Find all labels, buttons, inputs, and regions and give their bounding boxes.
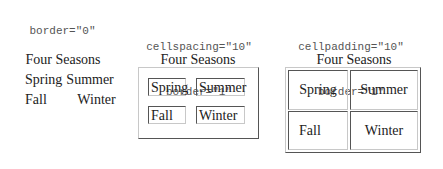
attribute-label-border-0: border="0" (10, 24, 115, 39)
table-cell: Spring (288, 70, 348, 110)
table-caption: Four Seasons (150, 52, 246, 68)
cellpadding-table: Spring Summer Fall Winter (285, 67, 421, 153)
table-cell: Fall (24, 91, 63, 109)
table-cell: Summer (196, 78, 245, 96)
table-caption: Four Seasons (18, 52, 108, 68)
table-row: Spring Summer (24, 71, 117, 89)
table-cell: Summer (350, 70, 418, 110)
table-cell: Spring (148, 78, 186, 96)
table-cell: Winter (196, 106, 245, 124)
table-caption: Four Seasons (304, 52, 404, 68)
borderless-table: Spring Summer Fall Winter (22, 69, 119, 111)
table-cell: Summer (65, 71, 116, 89)
table-row: Fall Winter (24, 91, 117, 109)
table-cell: Winter (350, 111, 418, 150)
table-cell: Fall (148, 106, 186, 124)
table-cell: Winter (65, 91, 116, 109)
table-cell: Spring (24, 71, 63, 89)
cellspacing-table: Spring Summer Fall Winter (138, 67, 259, 139)
table-cell: Fall (288, 111, 348, 150)
attribute-text: border="0" (29, 25, 95, 37)
